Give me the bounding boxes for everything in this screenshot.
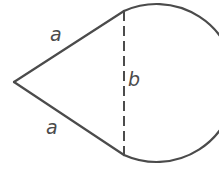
figure-canvas — [0, 0, 219, 176]
label-side-a-top: a — [50, 25, 62, 44]
side-a-upper-line — [14, 11, 124, 82]
geometry-figure: a a b — [0, 0, 219, 176]
label-chord-b: b — [128, 70, 140, 89]
side-a-lower-line — [14, 82, 124, 155]
label-side-a-bottom: a — [46, 118, 58, 137]
